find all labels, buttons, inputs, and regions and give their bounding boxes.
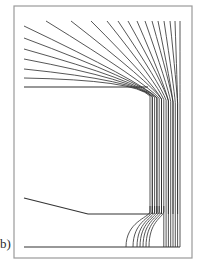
fan-line [128,21,168,214]
flow-line-plot [0,0,200,268]
upper-fan-lines [24,21,180,214]
fan-line [170,21,178,214]
fan-line [46,21,159,214]
figure-panel: b) [0,0,200,268]
fan-line [24,26,157,214]
panel-label: b) [0,237,11,251]
fan-line [24,59,152,214]
fan-line [164,21,175,214]
bottom-arc-lines [126,206,164,247]
vertical-line-bundle [164,214,180,247]
lower-boundary [24,198,150,214]
fan-line [24,69,152,214]
fan-line [91,21,162,214]
fan-line [24,49,155,214]
fan-line [145,21,171,214]
plot-frame [14,6,192,258]
fan-line [24,38,157,214]
fan-line [71,21,162,214]
fan-line [24,78,150,214]
